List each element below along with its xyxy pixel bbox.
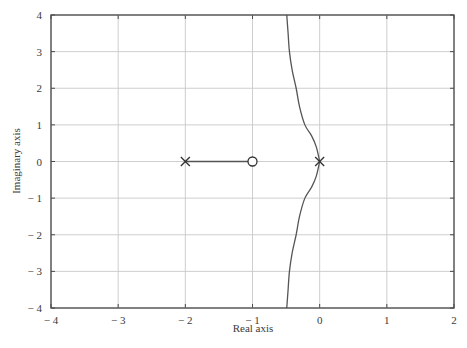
x-tick-label: 0 xyxy=(317,314,323,326)
y-tick-labels: − 4− 3− 2− 101234 xyxy=(28,9,43,314)
y-axis-label: Imaginary axis xyxy=(10,128,22,194)
y-tick-label: 4 xyxy=(37,9,43,21)
x-axis-label: Real axis xyxy=(233,322,274,334)
x-tick-label: 1 xyxy=(384,314,390,326)
root-locus-chart: − 4− 3− 2− 1012 − 4− 3− 2− 101234 Real a… xyxy=(0,0,467,348)
x-tick-label: − 3 xyxy=(111,314,126,326)
x-tick-label: − 4 xyxy=(44,314,59,326)
y-tick-label: − 2 xyxy=(28,229,42,241)
y-tick-label: 0 xyxy=(37,156,43,168)
y-tick-label: − 1 xyxy=(28,192,42,204)
x-tick-label: 2 xyxy=(451,314,457,326)
zero-circle-icon xyxy=(248,157,257,166)
y-tick-label: 2 xyxy=(37,82,43,94)
x-tick-label: − 2 xyxy=(178,314,192,326)
y-tick-label: 3 xyxy=(37,46,43,58)
y-tick-label: − 4 xyxy=(28,302,43,314)
y-tick-label: − 3 xyxy=(28,265,43,277)
y-tick-label: 1 xyxy=(37,119,43,131)
